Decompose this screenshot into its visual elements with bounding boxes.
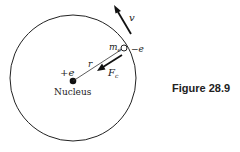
atom-diagram: v me −e r Fc +e Nucleus	[0, 0, 240, 152]
figure-caption: Figure 28.9	[172, 82, 230, 94]
nucleus-charge-label: +e	[60, 67, 74, 78]
radius-label: r	[88, 59, 93, 69]
electron-mass-label: me	[109, 42, 122, 53]
electron-charge-label: −e	[131, 44, 144, 54]
force-label: Fc	[107, 67, 119, 79]
electron	[121, 45, 127, 51]
nucleus-label: Nucleus	[54, 87, 92, 97]
velocity-label: v	[129, 12, 135, 23]
